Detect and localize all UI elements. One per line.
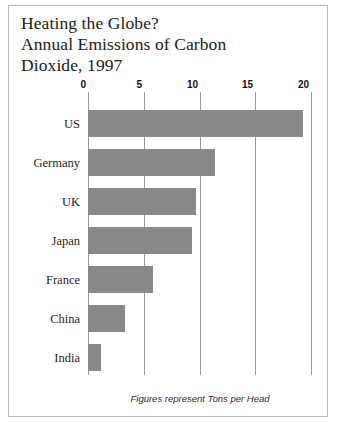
bar-germany xyxy=(88,149,215,176)
category-label-germany: Germany xyxy=(18,156,80,171)
category-label-japan: Japan xyxy=(18,234,80,249)
x-tick-label-5: 5 xyxy=(136,79,142,90)
bar-us xyxy=(88,110,303,137)
gridline-20 xyxy=(311,92,312,375)
x-tick-label-10: 10 xyxy=(187,79,198,90)
category-label-india: India xyxy=(18,351,80,366)
bar-uk xyxy=(88,188,196,215)
x-tick-label-20: 20 xyxy=(298,79,309,90)
category-label-uk: UK xyxy=(18,195,80,210)
chart-footnote: Figures represent Tons per Head xyxy=(88,393,312,404)
chart-page: Heating the Globe? Annual Emissions of C… xyxy=(0,0,340,422)
bar-japan xyxy=(88,227,192,254)
bar-india xyxy=(88,344,101,371)
x-tick-label-0: 0 xyxy=(80,79,86,90)
category-label-us: US xyxy=(18,117,80,132)
x-tick-label-15: 15 xyxy=(242,79,253,90)
category-label-france: France xyxy=(18,273,80,288)
bar-china xyxy=(88,305,125,332)
bar-france xyxy=(88,266,153,293)
category-label-china: China xyxy=(18,312,80,327)
plot-area: 0 5 10 15 20 US Germany UK Japan France … xyxy=(0,0,340,422)
